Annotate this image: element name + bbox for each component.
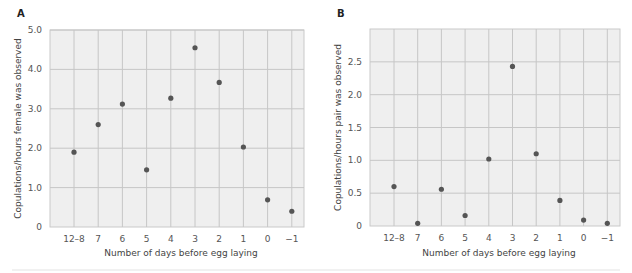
data-point bbox=[415, 221, 420, 226]
data-point bbox=[391, 184, 396, 189]
data-point bbox=[289, 209, 294, 214]
x-tick-label: 12–8 bbox=[63, 234, 85, 244]
y-tick-label: 2.0 bbox=[28, 143, 43, 153]
panel-label-b: B bbox=[337, 8, 345, 19]
data-point bbox=[557, 198, 562, 203]
x-tick-label: 2 bbox=[216, 234, 222, 244]
x-tick-label: 6 bbox=[439, 233, 445, 243]
x-ticks-a: 12–876543210−1 bbox=[63, 234, 298, 244]
y-tick-label: 0 bbox=[356, 221, 362, 231]
y-axis-title-a: Copulations/hours female was observed bbox=[13, 38, 23, 218]
data-point bbox=[192, 45, 197, 50]
x-tick-label: 4 bbox=[486, 233, 492, 243]
data-point bbox=[439, 187, 444, 192]
x-tick-label: 7 bbox=[415, 233, 421, 243]
x-tick-label: 12–8 bbox=[383, 233, 405, 243]
data-point bbox=[534, 151, 539, 156]
data-point bbox=[581, 217, 586, 222]
data-point bbox=[510, 64, 515, 69]
y-tick-label: 2.5 bbox=[348, 57, 362, 67]
panel-b: B 00.51.01.52.02.5 12–876543210−1 Number… bbox=[333, 8, 620, 258]
data-point bbox=[71, 150, 76, 155]
panel-label-a: A bbox=[17, 8, 25, 19]
x-axis-title-b: Number of days before egg laying bbox=[422, 248, 576, 258]
y-tick-label: 1.0 bbox=[28, 183, 43, 193]
y-tick-label: 1.5 bbox=[348, 123, 362, 133]
x-tick-label: 2 bbox=[533, 233, 539, 243]
data-point bbox=[463, 213, 468, 218]
x-tick-label: 1 bbox=[241, 234, 247, 244]
data-point bbox=[265, 197, 270, 202]
x-tick-label: 0 bbox=[581, 233, 587, 243]
data-point bbox=[217, 80, 222, 85]
data-point bbox=[168, 96, 173, 101]
y-tick-label: 1.0 bbox=[348, 155, 363, 165]
x-tick-label: −1 bbox=[285, 234, 298, 244]
x-tick-label: −1 bbox=[601, 233, 614, 243]
y-tick-label: 4.0 bbox=[28, 64, 43, 74]
figure: A 01.02.03.04.05.0 12–876543210−1 Number… bbox=[0, 0, 632, 273]
x-tick-label: 7 bbox=[95, 234, 101, 244]
y-tick-label: 2.0 bbox=[348, 90, 363, 100]
y-ticks-a: 01.02.03.04.05.0 bbox=[28, 25, 43, 232]
data-point bbox=[96, 122, 101, 127]
x-tick-label: 1 bbox=[557, 233, 563, 243]
x-tick-label: 4 bbox=[168, 234, 174, 244]
panel-a: A 01.02.03.04.05.0 12–876543210−1 Number… bbox=[13, 8, 304, 258]
x-tick-label: 3 bbox=[192, 234, 198, 244]
x-tick-label: 6 bbox=[120, 234, 126, 244]
data-point bbox=[241, 144, 246, 149]
y-tick-label: 0.5 bbox=[348, 188, 362, 198]
plot-area-a bbox=[50, 30, 304, 227]
data-point bbox=[605, 221, 610, 226]
data-point bbox=[120, 101, 125, 106]
y-axis-title-b: Copulations/hours pair was observed bbox=[333, 44, 343, 211]
y-tick-label: 3.0 bbox=[28, 104, 43, 114]
data-point bbox=[144, 167, 149, 172]
y-tick-label: 5.0 bbox=[28, 25, 43, 35]
x-tick-label: 0 bbox=[265, 234, 271, 244]
x-tick-label: 5 bbox=[462, 233, 468, 243]
x-tick-label: 5 bbox=[144, 234, 150, 244]
x-tick-label: 3 bbox=[510, 233, 516, 243]
y-tick-label: 0 bbox=[36, 222, 42, 232]
data-point bbox=[486, 156, 491, 161]
x-ticks-b: 12–876543210−1 bbox=[383, 233, 614, 243]
x-axis-title-a: Number of days before egg laying bbox=[104, 248, 258, 258]
y-ticks-b: 00.51.01.52.02.5 bbox=[348, 57, 363, 231]
